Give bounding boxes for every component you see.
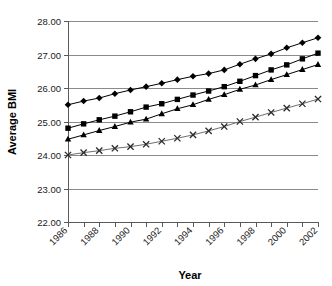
y-axis-title: Average BMI <box>6 89 18 155</box>
data-marker-square <box>206 88 211 93</box>
data-marker-square <box>300 56 305 61</box>
x-tick-label: 1996 <box>203 225 226 248</box>
data-marker-diamond <box>174 76 181 83</box>
data-marker-square <box>175 97 180 102</box>
y-tick-label: 25.00 <box>37 117 61 128</box>
data-marker-square <box>97 117 102 122</box>
data-marker-diamond <box>315 34 322 41</box>
data-marker-square <box>143 104 148 109</box>
data-marker-diamond <box>158 80 165 87</box>
data-marker-diamond <box>127 87 134 94</box>
data-marker-diamond <box>283 45 290 52</box>
y-tick-label: 22.00 <box>37 217 61 228</box>
x-tick-label: 1990 <box>109 225 132 248</box>
data-marker-square <box>253 73 258 78</box>
data-marker-square <box>268 67 273 72</box>
y-tick-label: 28.00 <box>37 16 61 27</box>
data-marker-diamond <box>80 98 87 105</box>
data-series <box>65 34 322 158</box>
data-marker-square <box>65 126 70 131</box>
data-marker-x <box>315 96 321 102</box>
data-marker-square <box>81 121 86 126</box>
series-square-line <box>68 53 318 128</box>
data-marker-square <box>112 113 117 118</box>
x-tick-label: 1992 <box>140 225 163 248</box>
data-marker-diamond <box>112 90 119 97</box>
data-marker-diamond <box>268 51 275 58</box>
data-marker-x <box>284 105 290 111</box>
data-marker-x <box>299 101 305 107</box>
gridlines <box>68 21 318 223</box>
data-marker-x <box>221 123 227 129</box>
data-marker-x <box>252 114 258 120</box>
data-marker-diamond <box>205 70 212 77</box>
data-marker-x <box>206 128 212 134</box>
x-tick-label: 1998 <box>234 225 257 248</box>
y-tick-marks <box>64 22 68 223</box>
data-marker-square <box>315 50 320 55</box>
x-tick-label: 1986 <box>47 225 70 248</box>
x-axis-title: Year <box>178 269 202 281</box>
data-marker-square <box>159 101 164 106</box>
y-tick-label: 26.00 <box>37 83 61 94</box>
x-tick-label: 1988 <box>78 225 101 248</box>
series-square <box>65 50 320 130</box>
data-marker-x <box>268 109 274 115</box>
data-marker-square <box>222 84 227 89</box>
y-tick-label: 23.00 <box>37 184 61 195</box>
series-cross-line <box>68 99 318 155</box>
data-marker-square <box>284 62 289 67</box>
data-marker-diamond <box>96 95 103 102</box>
y-tick-label: 24.00 <box>37 150 61 161</box>
data-marker-diamond <box>221 67 228 74</box>
data-marker-square <box>237 79 242 84</box>
x-tick-label: 1994 <box>172 225 195 248</box>
chart-canvas: 28.0027.0026.0025.0024.0023.0022.00 1986… <box>0 0 332 286</box>
y-tick-label: 27.00 <box>37 50 61 61</box>
data-marker-diamond <box>252 56 259 63</box>
y-tick-labels: 28.0027.0026.0025.0024.0023.0022.00 <box>37 16 61 228</box>
data-marker-diamond <box>299 39 306 46</box>
data-marker-square <box>190 92 195 97</box>
x-tick-label: 2002 <box>297 225 320 248</box>
x-tick-labels: 198619881990199219941996199820002002 <box>47 225 320 248</box>
x-tick-label: 2000 <box>265 225 288 248</box>
bmi-line-chart: 28.0027.0026.0025.0024.0023.0022.00 1986… <box>0 0 332 286</box>
data-marker-square <box>128 109 133 114</box>
data-marker-x <box>237 118 243 124</box>
data-marker-diamond <box>65 101 72 108</box>
data-marker-diamond <box>237 61 244 68</box>
data-marker-diamond <box>190 73 197 80</box>
data-marker-triangle <box>315 61 321 67</box>
